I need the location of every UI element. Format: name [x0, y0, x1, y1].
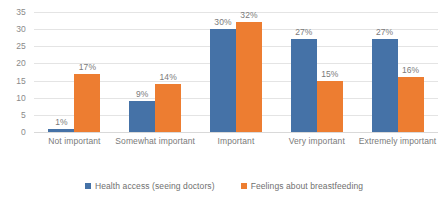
- bar[interactable]: 9%: [129, 101, 155, 132]
- bar-value-label: 14%: [160, 72, 177, 82]
- legend-item[interactable]: Feelings about breastfeeding: [241, 181, 363, 191]
- bar-group: 27%15%: [291, 12, 343, 132]
- bar[interactable]: 17%: [74, 74, 100, 132]
- legend-label: Health access (seeing doctors): [95, 181, 215, 191]
- x-axis: Not importantSomewhat importantImportant…: [34, 136, 438, 172]
- y-axis-tick-label: 15: [16, 76, 26, 86]
- y-axis-tick-label: 35: [16, 7, 26, 17]
- bar-value-label: 27%: [376, 27, 393, 37]
- legend-label: Feelings about breastfeeding: [251, 181, 363, 191]
- bar-value-label: 30%: [214, 17, 231, 27]
- bar-value-label: 9%: [136, 89, 149, 99]
- legend-swatch-icon: [85, 183, 91, 189]
- bar[interactable]: 27%: [291, 39, 317, 132]
- chart-legend: Health access (seeing doctors)Feelings a…: [0, 181, 448, 191]
- x-axis-category-label: Somewhat important: [109, 136, 202, 147]
- y-axis-tick-label: 30: [16, 24, 26, 34]
- plot-area: 1%17%9%14%30%32%27%15%27%16%: [34, 12, 438, 132]
- y-axis-tick-label: 20: [16, 58, 26, 68]
- x-axis-category-label: Not important: [28, 136, 121, 147]
- bar-value-label: 32%: [240, 10, 257, 20]
- bar-group: 27%16%: [372, 12, 424, 132]
- bar-chart: 05101520253035 1%17%9%14%30%32%27%15%27%…: [0, 0, 448, 202]
- bar-value-label: 1%: [55, 117, 68, 127]
- bar-group: 30%32%: [210, 12, 262, 132]
- x-axis-category-label: Extremely important: [351, 136, 444, 147]
- bar-value-label: 17%: [79, 62, 96, 72]
- bar[interactable]: 1%: [48, 129, 74, 132]
- y-axis-tick-label: 10: [16, 93, 26, 103]
- bar-group: 9%14%: [129, 12, 181, 132]
- bar-value-label: 16%: [402, 65, 419, 75]
- bar[interactable]: 15%: [317, 81, 343, 132]
- bar-group: 1%17%: [48, 12, 100, 132]
- bar-value-label: 15%: [321, 69, 338, 79]
- legend-swatch-icon: [241, 183, 247, 189]
- y-axis-tick-label: 5: [21, 110, 26, 120]
- axis-baseline: [34, 132, 438, 133]
- bar[interactable]: 16%: [398, 77, 424, 132]
- y-axis-tick-label: 25: [16, 41, 26, 51]
- bar[interactable]: 30%: [210, 29, 236, 132]
- legend-item[interactable]: Health access (seeing doctors): [85, 181, 215, 191]
- bar[interactable]: 32%: [236, 22, 262, 132]
- y-axis-tick-label: 0: [21, 127, 26, 137]
- x-axis-category-label: Important: [190, 136, 283, 147]
- bar[interactable]: 27%: [372, 39, 398, 132]
- bar[interactable]: 14%: [155, 84, 181, 132]
- bar-value-label: 27%: [295, 27, 312, 37]
- x-axis-category-label: Very important: [270, 136, 363, 147]
- y-axis: 05101520253035: [0, 0, 34, 202]
